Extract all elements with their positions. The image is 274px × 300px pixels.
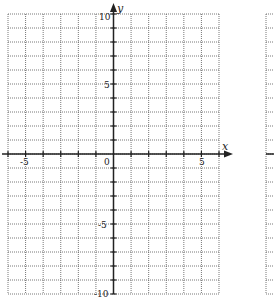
y-tick-label-neg5: -5 (98, 220, 107, 230)
coordinate-grid: y x 0 -5 5 10 5 -5 -10 (0, 0, 274, 300)
adjacent-grid-partial (266, 14, 274, 294)
y-tick-label-neg10: -10 (94, 289, 109, 299)
y-axis-label: y (116, 2, 124, 15)
y-tick-label-10: 10 (99, 12, 111, 22)
x-tick-label-neg5: -5 (20, 157, 29, 167)
x-axis-label: x (222, 140, 229, 153)
axes (2, 3, 233, 294)
x-tick-label-5: 5 (199, 157, 205, 167)
y-tick-label-5: 5 (104, 80, 110, 90)
origin-label: 0 (104, 157, 110, 167)
